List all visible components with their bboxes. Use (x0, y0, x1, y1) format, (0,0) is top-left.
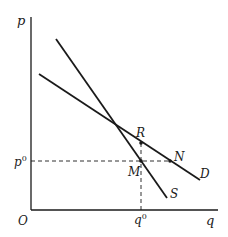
point-m-label: M (127, 165, 141, 179)
y-axis-label: p (17, 13, 26, 28)
demand-curve (39, 74, 200, 180)
demand-curve-label: D (199, 167, 210, 181)
point-r (139, 141, 143, 145)
point-r-label: R (135, 126, 145, 140)
supply-curve (56, 39, 167, 198)
x-axis-label: q (206, 213, 214, 228)
point-n (168, 159, 172, 163)
supply-demand-diagram: p q O p0 q0 R M N D S (0, 0, 228, 237)
origin-label: O (18, 214, 28, 228)
supply-curve-label: S (170, 187, 178, 201)
point-n-label: N (173, 150, 185, 164)
q0-label: q0 (134, 212, 147, 227)
point-m (139, 159, 143, 163)
p0-label: p0 (14, 154, 27, 169)
